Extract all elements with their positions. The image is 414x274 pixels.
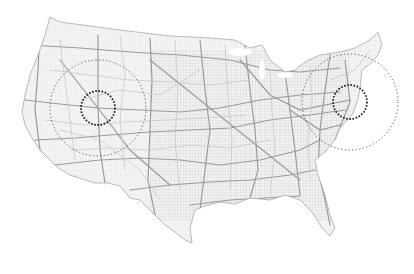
map-canvas xyxy=(0,0,414,274)
us-road-map xyxy=(0,0,414,274)
land-area xyxy=(0,0,414,274)
